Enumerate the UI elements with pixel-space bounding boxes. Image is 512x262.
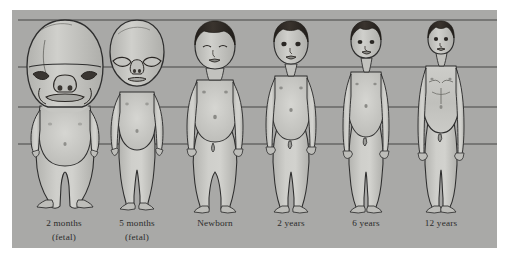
proportion-chart-plate: 2 months (fetal) 5 months (fetal) Newbor… — [0, 0, 512, 262]
caption-newborn-line1: Newborn — [197, 218, 233, 228]
child6-genitals — [363, 138, 367, 146]
fetal5-nipple-right — [145, 103, 149, 106]
toddler-nipple-left — [279, 87, 283, 90]
fetal2-navel — [63, 142, 66, 146]
fetal5-head — [110, 20, 164, 86]
fetal2-nostril-right — [68, 85, 73, 91]
child6-nipple-left — [355, 83, 358, 86]
fetal2-torso — [39, 106, 92, 166]
newborn-hand-left — [187, 149, 197, 157]
caption-fetal-2-months-line1: 2 months — [46, 218, 82, 228]
fetal2-nipple-left — [48, 122, 52, 125]
newborn-hand-right — [234, 149, 244, 157]
fetal2-mouth — [46, 94, 84, 102]
newborn-navel — [213, 115, 217, 119]
child12-mouth — [437, 48, 445, 51]
child12-hand-left — [418, 153, 428, 161]
toddler-hand-right — [307, 147, 317, 155]
fetal2-nostril-left — [58, 85, 63, 91]
caption-fetal-2-months-line2: (fetal) — [52, 232, 76, 242]
caption-2-years-line1: 2 years — [277, 218, 305, 228]
newborn-nipple-left — [202, 91, 206, 94]
toddler-eye-left — [281, 42, 286, 47]
fetal2-nipple-right — [78, 122, 82, 125]
fetal5-nose — [130, 60, 144, 74]
caption-fetal-5-months-line1: 5 months — [119, 218, 155, 228]
child12-eye-right — [444, 37, 448, 41]
toddler-nipple-right — [299, 87, 303, 90]
child12-genitals — [438, 134, 442, 142]
child6-navel — [364, 104, 367, 108]
child6-hand-left — [343, 151, 353, 159]
fetal5-nipple-left — [125, 103, 129, 106]
child6-eye-right — [370, 40, 375, 44]
fetal5-mouth — [128, 78, 146, 82]
child12-eye-left — [434, 37, 438, 41]
fetal5-nostril-right — [138, 69, 141, 73]
fetal5-navel — [135, 129, 138, 133]
newborn-torso — [193, 80, 237, 142]
child6-hand-right — [380, 151, 390, 159]
caption-12-years-line1: 12 years — [425, 218, 458, 228]
toddler-navel — [289, 108, 292, 112]
caption-fetal-5-months-line2: (fetal) — [125, 232, 149, 242]
child12-nipple-right — [448, 78, 451, 80]
newborn-neck — [206, 68, 224, 80]
toddler-genitals — [288, 141, 292, 149]
caption-6-years-line1: 6 years — [352, 218, 380, 228]
child12-nipple-left — [430, 78, 433, 80]
child6-eye-left — [358, 40, 363, 44]
toddler-hand-left — [266, 147, 276, 155]
newborn-nipple-right — [224, 91, 228, 94]
fetal5-torso — [118, 92, 157, 150]
proportion-chart-svg: 2 months (fetal) 5 months (fetal) Newbor… — [0, 0, 512, 262]
child12-hand-right — [455, 153, 465, 161]
fetal2-nose — [54, 75, 77, 92]
fetal5-nostril-left — [133, 69, 136, 73]
child12-navel — [440, 105, 443, 109]
toddler-eye-right — [295, 42, 300, 47]
child6-nipple-right — [373, 83, 376, 86]
